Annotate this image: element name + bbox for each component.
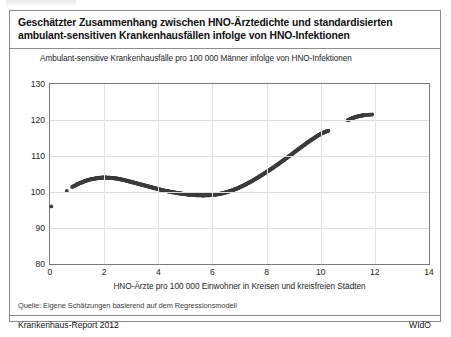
figure-page: Geschätzter Zusammenhang zwischen HNO-Är… xyxy=(0,0,451,337)
x-axis-tick-label: 4 xyxy=(156,267,161,277)
x-axis-tick-label: 8 xyxy=(264,267,269,277)
y-gridline xyxy=(50,156,429,157)
report-name: Krankenhaus-Report 2012 xyxy=(18,320,119,330)
x-axis-tick-label: 12 xyxy=(370,267,380,277)
scan-artifact xyxy=(6,0,76,7)
figure-title-box: Geschätzter Zusammenhang zwischen HNO-Är… xyxy=(10,11,440,49)
y-axis-tick-label: 120 xyxy=(31,115,45,125)
x-gridline xyxy=(267,84,268,264)
figure-card: Geschätzter Zusammenhang zwischen HNO-Är… xyxy=(9,10,441,322)
x-axis-tick-label: 10 xyxy=(316,267,326,277)
y-axis-tick-label: 100 xyxy=(31,187,45,197)
data-point xyxy=(326,129,330,133)
page-title-line-1: Geschätzter Zusammenhang zwischen HNO-Är… xyxy=(18,16,430,29)
chart-plot-frame: 809010011012013002468101214 xyxy=(49,83,430,265)
x-gridline xyxy=(375,84,376,264)
plot-area: Ambulant-sensitive Krankenhausfälle pro … xyxy=(10,49,440,321)
x-axis-label: HNO-Ärzte pro 100 000 Einwohner in Kreis… xyxy=(49,281,430,291)
page-title-line-2: ambulant-sensitiven Krankenhausfällen in… xyxy=(18,29,430,42)
data-series-scatter xyxy=(50,84,429,264)
y-gridline xyxy=(50,228,429,229)
source-note: Quelle: Eigene Schätzungen basierend auf… xyxy=(18,301,237,310)
y-axis-tick-label: 90 xyxy=(35,223,45,233)
data-point xyxy=(369,113,373,117)
chart-subtitle: Ambulant-sensitive Krankenhausfälle pro … xyxy=(40,54,352,63)
y-gridline xyxy=(50,120,429,121)
x-axis-tick-label: 6 xyxy=(210,267,215,277)
figure-footer: Krankenhaus-Report 2012 WIdO xyxy=(10,315,440,336)
x-gridline xyxy=(321,84,322,264)
x-gridline xyxy=(104,84,105,264)
y-gridline xyxy=(50,192,429,193)
y-axis-tick-label: 80 xyxy=(35,259,45,269)
x-axis-tick-label: 2 xyxy=(102,267,107,277)
data-point xyxy=(49,205,53,209)
x-axis-tick-label: 0 xyxy=(48,267,53,277)
y-axis-tick-label: 110 xyxy=(31,151,45,161)
x-gridline xyxy=(158,84,159,264)
x-gridline xyxy=(212,84,213,264)
publisher-mark: WIdO xyxy=(409,320,431,330)
x-axis-tick-label: 14 xyxy=(424,267,434,277)
y-axis-tick-label: 130 xyxy=(31,79,45,89)
